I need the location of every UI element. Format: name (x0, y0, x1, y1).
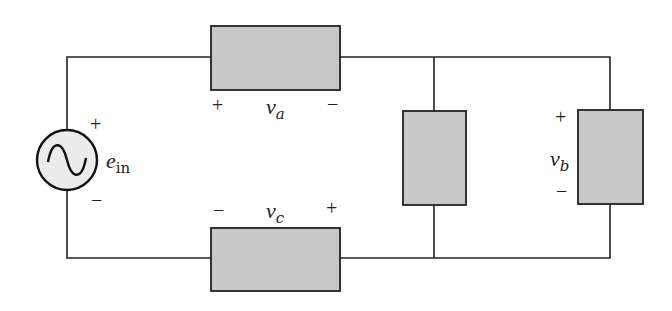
wire-top-left (67, 57, 211, 130)
component-a-box (211, 26, 340, 90)
va-label-var: v (266, 94, 276, 119)
va-minus-sign: − (327, 94, 338, 114)
va-plus-sign: + (212, 95, 223, 115)
vb-label: vb (550, 148, 569, 170)
wire-top-right (340, 57, 610, 110)
va-label-sub: a (276, 105, 285, 123)
wire-bottom-left (67, 190, 211, 258)
vb-plus-sign: + (555, 107, 566, 127)
circuit-diagram: + − ein + va − − vc + + vb − (0, 0, 672, 311)
source-label-sub: in (116, 159, 130, 177)
vc-plus-sign: + (326, 198, 337, 218)
vc-label: vc (266, 200, 284, 222)
source-minus-sign: − (91, 190, 102, 210)
component-middle-box (403, 111, 466, 205)
vb-label-var: v (550, 146, 560, 171)
vc-label-sub: c (276, 209, 284, 227)
vc-label-var: v (266, 198, 276, 223)
vb-minus-sign: − (556, 181, 567, 201)
va-label: va (266, 96, 285, 118)
vb-label-sub: b (560, 157, 570, 175)
component-c-box (211, 228, 340, 291)
source-label-main: e (106, 148, 116, 173)
vc-minus-sign: − (213, 200, 224, 220)
source-plus-sign: + (90, 114, 101, 134)
component-b-box (578, 110, 643, 204)
source-label: ein (106, 150, 130, 172)
circuit-schematic (0, 0, 672, 311)
wire-bottom-right (340, 204, 610, 258)
ac-source-icon (37, 130, 97, 190)
